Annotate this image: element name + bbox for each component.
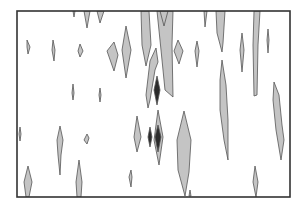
contour-spot bbox=[141, 11, 151, 66]
contour-spot bbox=[253, 11, 260, 96]
contour-spot bbox=[174, 40, 183, 64]
contour-plot bbox=[0, 0, 303, 212]
contour-spot bbox=[73, 11, 75, 17]
contour-spot bbox=[253, 166, 258, 197]
contour-spot bbox=[84, 11, 90, 28]
contour-spot bbox=[84, 134, 89, 144]
contour-spot-dark bbox=[154, 76, 160, 105]
contour-spot bbox=[99, 88, 101, 102]
contour-spot bbox=[204, 11, 207, 27]
contour-spot-dark bbox=[148, 127, 152, 147]
contour-spot bbox=[216, 11, 225, 52]
contour-spot bbox=[157, 11, 173, 97]
contour-spot bbox=[19, 127, 21, 141]
contour-spot bbox=[27, 40, 30, 54]
plot-frame bbox=[17, 11, 290, 197]
contour-spot bbox=[97, 11, 104, 23]
contour-spot bbox=[57, 126, 63, 175]
contour-spot bbox=[134, 116, 141, 152]
contour-spot bbox=[189, 190, 191, 196]
contour-spot bbox=[240, 33, 244, 72]
contour-spot bbox=[177, 111, 191, 196]
contour-spot bbox=[267, 29, 269, 53]
contour-spot bbox=[72, 84, 74, 100]
contour-spot bbox=[122, 26, 131, 78]
contour-spots bbox=[19, 11, 284, 197]
contour-spot bbox=[129, 170, 132, 187]
contour-spot bbox=[78, 44, 83, 57]
contour-spot bbox=[107, 42, 118, 71]
contour-spot bbox=[273, 82, 284, 160]
contour-spot bbox=[24, 166, 32, 197]
contour-spot bbox=[76, 160, 82, 197]
contour-spot bbox=[195, 41, 199, 67]
contour-spot bbox=[220, 60, 228, 160]
contour-spot bbox=[52, 40, 55, 61]
